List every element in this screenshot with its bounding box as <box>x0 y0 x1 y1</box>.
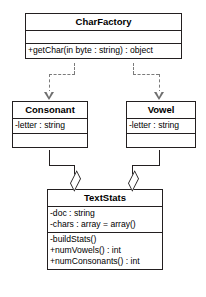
attributes-compartment-charfactory <box>26 31 181 44</box>
aggregation-vowel-stub-down <box>159 150 160 165</box>
realization-vowel-elbow <box>133 74 159 75</box>
operations-compartment-vowel <box>127 134 195 147</box>
attribute-item: -letter : string <box>127 120 195 131</box>
realization-arrowhead-consonant <box>44 92 54 100</box>
realization-arrowhead-vowel <box>154 92 164 100</box>
class-name-textstats: TextStats <box>48 190 162 207</box>
aggregation-consonant-stub-down <box>49 150 50 165</box>
attribute-item: -doc : string <box>48 208 162 219</box>
attributes-compartment-textstats: -doc : string -chars : array = array() <box>48 207 162 233</box>
operations-compartment-textstats: -buildStats() +numVowels() : int +numCon… <box>48 233 162 269</box>
class-box-textstats[interactable]: TextStats -doc : string -chars : array =… <box>47 189 163 270</box>
operation-item: +numConsonants() : int <box>48 256 162 267</box>
operation-item: +getChar(in byte : string) : object <box>26 45 181 56</box>
operation-item: +numVowels() : int <box>48 245 162 256</box>
operation-item: -buildStats() <box>48 234 162 245</box>
attribute-item: -letter : string <box>13 120 87 131</box>
class-box-consonant[interactable]: Consonant -letter : string <box>12 101 88 148</box>
class-name-charfactory: CharFactory <box>26 14 181 31</box>
class-box-charfactory[interactable]: CharFactory +getChar(in byte : string) :… <box>25 13 182 59</box>
realization-consonant-stub-down <box>74 63 75 74</box>
operations-compartment-consonant <box>13 134 87 147</box>
realization-vowel-drop <box>159 74 160 93</box>
realization-vowel-stub-down <box>133 63 134 74</box>
realization-consonant-elbow <box>49 74 75 75</box>
class-box-vowel[interactable]: Vowel -letter : string <box>126 101 196 148</box>
attribute-item: -chars : array = array() <box>48 219 162 230</box>
operations-compartment-charfactory: +getChar(in byte : string) : object <box>26 44 181 58</box>
realization-consonant-drop <box>49 74 50 93</box>
class-name-consonant: Consonant <box>13 102 87 119</box>
aggregation-vowel-elbow <box>132 165 160 166</box>
aggregation-consonant-elbow <box>49 165 75 166</box>
uml-class-diagram: · · · · CharFactory +getChar(in byte : s… <box>0 0 206 297</box>
attributes-compartment-vowel: -letter : string <box>127 119 195 134</box>
attributes-compartment-consonant: -letter : string <box>13 119 87 134</box>
class-name-vowel: Vowel <box>127 102 195 119</box>
cropped-top-text: · · · · <box>0 0 206 3</box>
